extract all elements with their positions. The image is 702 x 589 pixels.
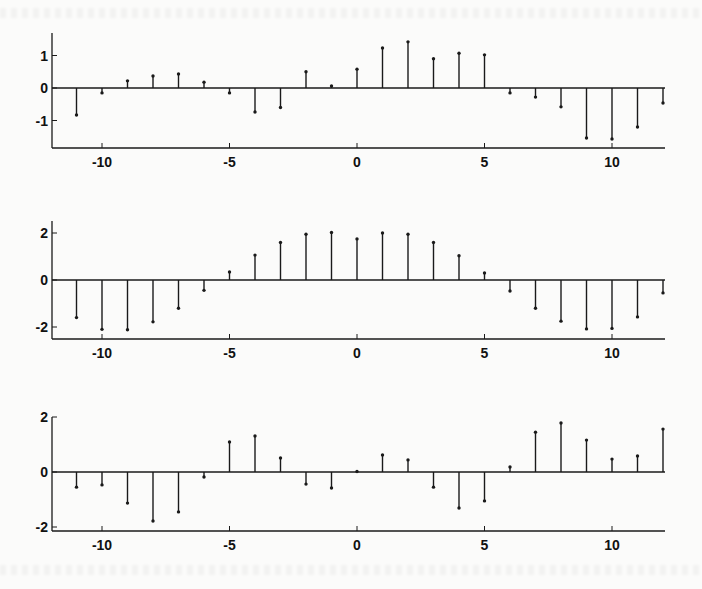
stem-marker: [253, 253, 256, 256]
stem-marker: [304, 482, 307, 485]
stem-marker: [100, 91, 103, 94]
stem-marker: [151, 519, 154, 522]
stem-marker: [508, 465, 511, 468]
stem-marker: [457, 254, 460, 257]
stem-marker: [406, 232, 409, 235]
x-tick-label: 0: [353, 345, 361, 361]
stem-marker: [661, 291, 664, 294]
x-tick-label: -5: [223, 345, 236, 361]
stem-marker: [355, 67, 358, 70]
stem-marker: [253, 110, 256, 113]
stem-marker: [75, 485, 78, 488]
stem-marker: [177, 72, 180, 75]
stem-marker: [483, 53, 486, 56]
stem-marker: [585, 327, 588, 330]
stem-chart-middle: 20-2-10-50510: [36, 221, 665, 361]
stem-marker: [661, 101, 664, 104]
stem-marker: [228, 440, 231, 443]
y-tick-label: -2: [36, 519, 49, 535]
stem-marker: [202, 475, 205, 478]
stem-marker: [585, 438, 588, 441]
stem-marker: [508, 289, 511, 292]
y-tick-label: 2: [40, 409, 48, 425]
stem-marker: [177, 510, 180, 513]
stem-marker: [126, 79, 129, 82]
x-tick-label: -10: [92, 154, 112, 170]
x-tick-label: 10: [604, 154, 620, 170]
stem-chart-bottom: 20-2-10-50510: [36, 409, 665, 553]
x-tick-label: -5: [223, 154, 236, 170]
stem-marker: [610, 457, 613, 460]
stem-marker: [304, 232, 307, 235]
stem-marker: [177, 307, 180, 310]
stem-marker: [559, 319, 562, 322]
stem-marker: [151, 74, 154, 77]
stem-marker: [279, 106, 282, 109]
x-tick-label: 0: [353, 154, 361, 170]
stem-marker: [202, 289, 205, 292]
stem-marker: [126, 328, 129, 331]
stem-marker: [406, 40, 409, 43]
stem-marker: [253, 434, 256, 437]
stem-marker: [508, 91, 511, 94]
stem-marker: [100, 483, 103, 486]
stem-plot-figure: 10-1-10-50510 20-2-10-50510 20-2-10-5051…: [0, 0, 702, 589]
stem-marker: [330, 84, 333, 87]
stem-marker: [126, 501, 129, 504]
x-tick-label: 5: [481, 537, 489, 553]
x-tick-label: 10: [604, 537, 620, 553]
x-tick-label: -5: [223, 537, 236, 553]
x-tick-label: -10: [92, 537, 112, 553]
stem-marker: [279, 241, 282, 244]
stem-marker: [202, 80, 205, 83]
stem-marker: [381, 231, 384, 234]
x-tick-label: 0: [353, 537, 361, 553]
stem-marker: [100, 328, 103, 331]
stem-marker: [636, 125, 639, 128]
stem-marker: [406, 458, 409, 461]
x-tick-label: -10: [92, 345, 112, 361]
x-tick-label: 5: [481, 345, 489, 361]
stem-chart-top: 10-1-10-50510: [36, 33, 665, 170]
stem-marker: [279, 456, 282, 459]
stem-marker: [534, 307, 537, 310]
stem-marker: [355, 470, 358, 473]
stem-marker: [636, 454, 639, 457]
stem-marker: [330, 486, 333, 489]
stem-marker: [304, 70, 307, 73]
stem-marker: [457, 506, 460, 509]
stem-marker: [228, 91, 231, 94]
y-tick-label: -2: [36, 319, 49, 335]
y-tick-label: 0: [40, 464, 48, 480]
stem-marker: [432, 241, 435, 244]
stem-marker: [432, 57, 435, 60]
stem-marker: [228, 270, 231, 273]
stem-marker: [457, 52, 460, 55]
stem-marker: [483, 499, 486, 502]
x-tick-label: 10: [604, 345, 620, 361]
stem-marker: [381, 46, 384, 49]
stem-marker: [381, 453, 384, 456]
stem-marker: [585, 136, 588, 139]
stem-marker: [75, 316, 78, 319]
y-tick-label: 0: [40, 80, 48, 96]
stem-marker: [355, 237, 358, 240]
stem-marker: [610, 137, 613, 140]
stem-marker: [661, 427, 664, 430]
y-tick-label: 1: [40, 48, 48, 64]
stem-marker: [534, 430, 537, 433]
stem-marker: [534, 95, 537, 98]
stem-marker: [559, 421, 562, 424]
stem-marker: [432, 485, 435, 488]
y-tick-label: 2: [40, 225, 48, 241]
stem-marker: [610, 327, 613, 330]
stem-marker: [483, 271, 486, 274]
x-tick-label: 5: [481, 154, 489, 170]
stem-marker: [559, 105, 562, 108]
stem-marker: [151, 320, 154, 323]
stem-marker: [636, 315, 639, 318]
y-tick-label: 0: [40, 272, 48, 288]
stem-marker: [330, 231, 333, 234]
y-tick-label: -1: [36, 113, 49, 129]
stem-marker: [75, 113, 78, 116]
